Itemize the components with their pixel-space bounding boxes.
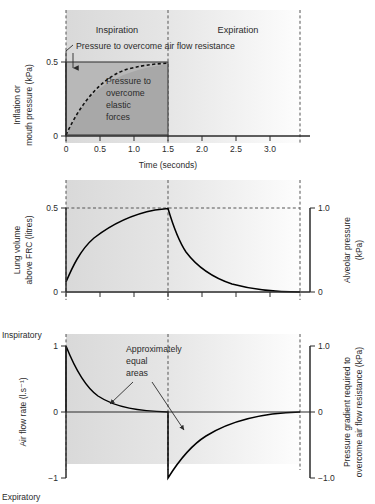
elastic-forces-label-line3: elastic [106,100,132,110]
panel-flow-y2-axis-title-line1: Pressure gradient required to [342,357,352,467]
panel-pressure-xlabel-2.5: 2.5 [230,144,242,154]
panel-pressure-ylabel-0: 0 [53,131,58,141]
expiratory-caption: Expiratory [2,492,41,502]
panel-volume-ylabel-0.5: 0.5 [46,203,58,213]
panel-volume-y-axis-title-line1: Lung volume [12,225,22,274]
panel-pressure-xlabel-1.5: 1.5 [162,144,174,154]
panel-volume-y-axis-title-line2: above FRC (litres) [24,215,34,284]
panel-pressure-xlabel-0.5: 0.5 [94,144,106,154]
panel-pressure-y-axis-title-line2: mouth pressure (kPa) [24,64,34,146]
panel-volume-y2-axis-title-line1: Alveolar pressure [342,217,352,283]
panel-volume-background [66,180,300,293]
inspiration-region-label: Inspiration [96,25,138,35]
inspiratory-caption: Inspiratory [2,330,42,340]
panel-pressure: Inspiration Expiration Pressure to overc… [12,10,310,170]
panel-pressure-xlabel-0: 0 [64,144,69,154]
equal-areas-label-line1: Approximately [126,344,182,354]
expiration-region-label: Expiration [218,25,259,35]
equal-areas-label-line2: equal [126,356,148,366]
panel-volume-y2label-1.0: 1.0 [318,203,330,213]
panel-flow-background [66,334,300,464]
elastic-forces-label-line1: Pressure to [106,76,151,86]
panel-volume: 0.5 0 Lung volume above FRC (litres) 1.0… [12,180,364,300]
figure-canvas: Inspiration Expiration Pressure to overc… [0,0,375,504]
panel-pressure-y-axis-title-line1: Inflation or [12,85,22,125]
panel-flow-ylabel-minus1: −1 [48,473,58,483]
time-axis-title: Time (seconds) [139,160,197,170]
airflow-resistance-label: Pressure to overcome air flow resistance [76,41,235,51]
panel-pressure-xlabel-1.0: 1.0 [128,144,140,154]
panel-volume-ylabel-0: 0 [53,287,58,297]
elastic-forces-label-line2: overcome [106,88,145,98]
panel-flow-y-axis-title: Air flow rate (l.s⁻¹) [18,377,28,446]
panel-pressure-ylabel-0.5: 0.5 [46,57,58,67]
panel-flow-y2-axis-title-line2: overcome air flow resistance (kPa) [354,347,364,478]
panel-flow-ylabel-0: 0 [53,407,58,417]
panel-pressure-xlabel-2.0: 2.0 [196,144,208,154]
panel-volume-y2label-0: 0 [318,287,323,297]
equal-areas-label-line3: areas [126,368,149,378]
panel-flow-y2label-minus1.0: −1.0 [318,473,335,483]
respiratory-mechanics-figure: Inspiration Expiration Pressure to overc… [0,0,375,504]
panel-flow-ylabel-1: 1 [53,341,58,351]
panel-flow-y2label-1.0: 1.0 [318,341,330,351]
panel-flow-y2label-0: 0 [318,407,323,417]
panel-pressure-xlabel-3.0: 3.0 [264,144,276,154]
panel-flow: Inspiratory Expiratory Approximately equ… [2,330,364,502]
panel-volume-y2-axis-title-line2: (kPa) [354,240,364,260]
elastic-forces-label-line4: forces [106,112,131,122]
